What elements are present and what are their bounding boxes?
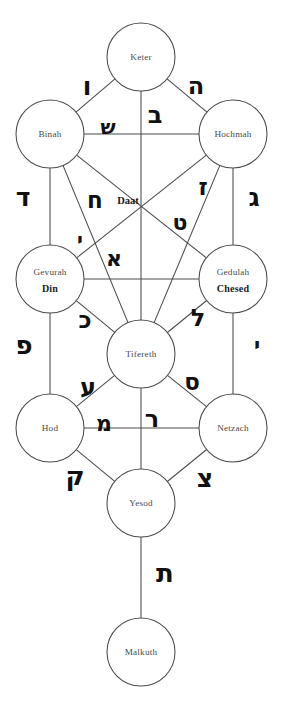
sephira-label-malkuth: Malkuth	[125, 647, 158, 657]
hebrew-letter-qof-19: ק	[65, 461, 84, 491]
hebrew-letter-bet-2: ב	[148, 101, 163, 129]
hebrew-letter-dalet-4: ד	[16, 183, 31, 212]
hebrew-letter-shin-3: ש	[100, 115, 115, 139]
hebrew-letter-tet-8: ט	[173, 210, 188, 235]
hebrew-letter-tav-21: ת	[156, 558, 174, 588]
sephira-label-tifereth: Tifereth	[126, 349, 157, 359]
hebrew-letter-yod-9: י	[77, 228, 83, 252]
sephira-label-gedulah: Gedulah	[217, 267, 250, 277]
sephira-gedulah[interactable]	[199, 245, 267, 313]
sephira-alt-label-gedulah: Chesed	[217, 283, 250, 294]
hebrew-letter-zayin-7: ז	[198, 174, 207, 200]
sephira-label-binah: Binah	[39, 129, 62, 139]
hebrew-letter-kaf-11: כ	[78, 307, 91, 333]
hebrew-letter-alef-10: א	[106, 246, 122, 271]
hebrew-letter-heh-1: ה	[188, 72, 205, 100]
hebrew-letter-vav-0: ו	[83, 72, 92, 101]
sephira-label-yesod: Yesod	[129, 498, 153, 508]
sephira-alt-label-gevurah: Din	[42, 283, 58, 294]
sephira-label-netzach: Netzach	[217, 423, 249, 433]
hebrew-letter-lamed-12: ל	[191, 304, 206, 332]
sephira-label-gevurah: Gevurah	[33, 267, 66, 277]
daat-group: Daat	[117, 195, 139, 206]
daat-label: Daat	[117, 195, 139, 206]
hebrew-letter-gimel-5: ג	[248, 183, 259, 212]
sephira-label-hod: Hod	[42, 423, 59, 433]
hebrew-letter-tsadi-20: צ	[197, 464, 213, 493]
hebrew-letter-samekh-16: ס	[184, 369, 200, 395]
hebrew-letter-pe-13: פ	[15, 330, 32, 360]
hebrew-letter-mem-17: מ	[96, 411, 112, 436]
hebrew-letter-ayin-15: ע	[80, 373, 96, 401]
sephira-label-keter: Keter	[130, 52, 151, 62]
sephira-gevurah[interactable]	[16, 245, 84, 313]
hebrew-letter-chet-6: ח	[87, 187, 103, 213]
sephira-label-hochmah: Hochmah	[214, 129, 251, 139]
tree-of-life-svg: KeterBinahHochmahGevurahDinGedulahChesed…	[0, 0, 283, 702]
hebrew-letter-yod-14: י	[254, 333, 260, 357]
hebrew-letter-resh-18: ר	[145, 405, 159, 433]
tree-of-life-diagram: KeterBinahHochmahGevurahDinGedulahChesed…	[0, 0, 283, 702]
